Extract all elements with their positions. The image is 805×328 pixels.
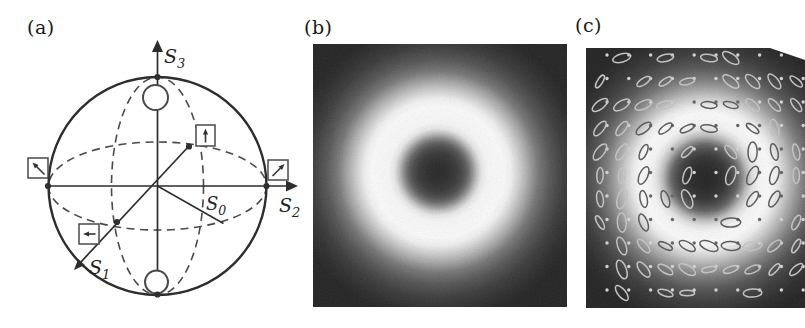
- beam-intensity-image: [313, 44, 567, 307]
- s3-axis-label: S3: [164, 45, 185, 71]
- s3-arrowhead: [152, 40, 163, 52]
- circular-polarization-icon-bottom: [145, 271, 168, 294]
- poincare-sphere-diagram: S3 S2 S1 S0: [0, 0, 310, 328]
- marker-dot-bottom-pole: [154, 291, 160, 297]
- s1-axis-label: S1: [89, 256, 110, 282]
- marker-dot-front-s1: [114, 219, 120, 225]
- plus45-linear-polarization-icon: [268, 160, 288, 180]
- figure-container: (a) (b) (c): [0, 0, 805, 328]
- marker-dot-right-equator: [263, 183, 269, 189]
- film-grain-overlay: [586, 48, 805, 308]
- s2-arrowhead: [286, 181, 298, 192]
- film-grain-overlay: [313, 44, 567, 307]
- vertical-linear-polarization-icon: [196, 125, 215, 146]
- marker-dot-left-equator: [45, 183, 51, 189]
- s1-axis: [80, 146, 189, 263]
- beam-polarization-image: [586, 48, 805, 308]
- horizontal-linear-polarization-icon: [79, 224, 99, 244]
- circular-polarization-icon-top: [143, 85, 168, 110]
- marker-dot-top-pole: [154, 74, 160, 80]
- s0-radius-label: S0: [206, 193, 226, 218]
- minus45-linear-polarization-icon: [28, 158, 48, 178]
- panel-c-label: (c): [575, 14, 602, 36]
- s2-axis-label: S2: [279, 194, 300, 220]
- marker-dot-back-equator: [186, 143, 192, 149]
